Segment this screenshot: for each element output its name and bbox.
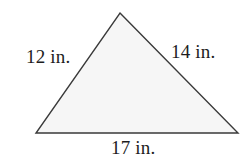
left-side-length-label: 12 in.: [26, 47, 70, 66]
triangle-figure: 12 in. 14 in. 17 in.: [0, 0, 252, 159]
triangle-shape: [0, 0, 252, 159]
triangle-outline: [36, 13, 238, 133]
bottom-side-length-label: 17 in.: [111, 138, 155, 157]
right-side-length-label: 14 in.: [171, 42, 215, 61]
